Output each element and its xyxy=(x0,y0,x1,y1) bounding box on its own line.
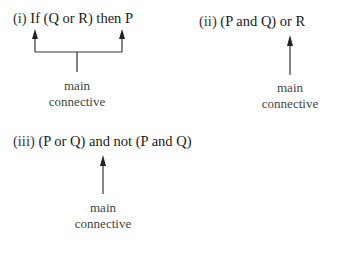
label-line: connective xyxy=(58,216,148,232)
label-line: main xyxy=(32,78,122,94)
formula-text: (P or Q) and not (P and Q) xyxy=(38,133,191,149)
formula-number: (iii) xyxy=(13,133,35,149)
label-line: main xyxy=(58,200,148,216)
formula-i: (i) If (Q or R) then P xyxy=(13,11,133,26)
arrow-iii xyxy=(100,155,106,194)
main-connective-label-ii: main connective xyxy=(245,80,335,112)
formula-iii: (iii) (P or Q) and not (P and Q) xyxy=(13,134,192,149)
main-connective-label-i: main connective xyxy=(32,78,122,110)
label-line: main xyxy=(245,80,335,96)
formula-text: If (Q or R) then P xyxy=(30,10,133,26)
label-line: connective xyxy=(32,94,122,110)
main-connective-label-iii: main connective xyxy=(58,200,148,232)
formula-number: (i) xyxy=(13,10,27,26)
label-line: connective xyxy=(245,96,335,112)
formula-ii: (ii) (P and Q) or R xyxy=(199,14,305,29)
arrow-ii xyxy=(287,35,293,75)
formula-text: (P and Q) or R xyxy=(220,13,305,29)
arrows-layer xyxy=(0,0,350,255)
formula-number: (ii) xyxy=(199,13,217,29)
bracket-arrow-i xyxy=(32,29,125,72)
